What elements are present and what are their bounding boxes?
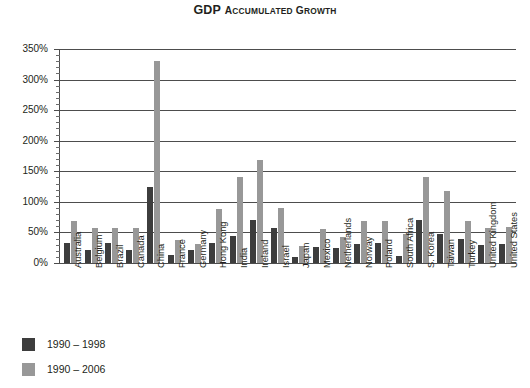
bar-1990-1998 — [375, 243, 381, 263]
y-axis-labels: 0%50%100%150%200%250%300%350% — [0, 0, 54, 388]
y-axis-label-300: 300% — [22, 75, 48, 85]
bar-1990-1998 — [188, 250, 194, 263]
x-axis-label: Netherlands — [344, 218, 353, 268]
x-axis-label: Turkey — [468, 240, 477, 268]
bar-1990-1998 — [478, 245, 484, 263]
bar-1990-1998 — [168, 255, 174, 263]
bar-1990-1998 — [396, 256, 402, 263]
chart-title-rest: ACCUMULATED GROWTH — [225, 5, 337, 16]
bar-group — [105, 49, 118, 263]
y-axis-label-100: 100% — [22, 197, 48, 207]
y-axis-label-350: 350% — [22, 44, 48, 54]
x-axis-label: China — [157, 244, 166, 268]
bar-1990-1998 — [437, 234, 443, 263]
y-axis-label-150: 150% — [22, 166, 48, 176]
bar-group — [271, 49, 284, 263]
bar-group — [354, 49, 367, 263]
y-axis-label-0: 0% — [34, 258, 48, 268]
bar-group — [147, 49, 160, 263]
bar-group — [292, 49, 305, 263]
bar-group — [230, 49, 243, 263]
x-axis-label: Belgium — [95, 234, 104, 268]
x-axis-label: South Africa — [406, 218, 415, 268]
x-axis-label: Poland — [385, 239, 394, 268]
bar-1990-1998 — [105, 243, 111, 263]
bar-group — [85, 49, 98, 263]
chart-title: GDP ACCUMULATED GROWTH — [0, 3, 530, 17]
x-axis-label: Brazil — [116, 245, 125, 268]
y-axis-label-250: 250% — [22, 105, 48, 115]
x-axis-label: Canada — [137, 235, 146, 268]
bar-1990-1998 — [230, 236, 236, 263]
bar-1990-1998 — [499, 244, 505, 263]
x-axis-label: Australia — [74, 232, 83, 268]
gdp-accumulated-growth-chart: GDP ACCUMULATED GROWTH 0%50%100%150%200%… — [0, 0, 530, 388]
x-axis-label: Hong Kong — [219, 221, 228, 268]
y-axis-label-200: 200% — [22, 136, 48, 146]
x-axis-label: Germany — [199, 230, 208, 268]
x-axis-label: Ireland — [261, 240, 270, 268]
legend-label: 1990 – 2006 — [47, 363, 105, 376]
x-axis-label: United States — [510, 212, 519, 268]
y-tick-major-0 — [54, 263, 60, 264]
bar-1990-1998 — [313, 247, 319, 264]
legend-label: 1990 – 1998 — [47, 338, 105, 351]
chart-title-lead: GDP — [193, 3, 221, 17]
x-axis-label: S. Korea — [427, 232, 436, 268]
bar-1990-1998 — [333, 248, 339, 263]
bar-1990-1998 — [209, 243, 215, 263]
x-axis-label: United Kingdom — [489, 202, 498, 268]
bar-group — [313, 49, 326, 263]
bar-group — [458, 49, 471, 263]
bar-1990-1998 — [271, 228, 277, 263]
legend-swatch-icon — [22, 338, 35, 351]
bar-1990-2006 — [154, 61, 160, 263]
bar-group — [250, 49, 263, 263]
bar-1990-1998 — [126, 250, 132, 263]
bar-1990-1998 — [147, 187, 153, 263]
x-axis-label: India — [240, 248, 249, 268]
bar-group — [168, 49, 181, 263]
y-axis-label-50: 50% — [28, 227, 48, 237]
bar-1990-1998 — [250, 220, 256, 263]
bar-1990-1998 — [354, 244, 360, 263]
x-axis-label: Israel — [282, 245, 291, 268]
bar-group — [375, 49, 388, 263]
x-axis-label: Japan — [302, 243, 311, 268]
bars-layer — [59, 49, 515, 263]
bar-1990-1998 — [85, 250, 91, 263]
bar-1990-1998 — [416, 220, 422, 263]
bar-1990-1998 — [458, 239, 464, 263]
bar-1990-1998 — [64, 243, 70, 263]
bar-group — [437, 49, 450, 263]
legend-swatch-icon — [22, 363, 35, 376]
x-axis-label: France — [178, 239, 187, 268]
x-axis-label: Norway — [365, 236, 374, 268]
x-axis-labels: AustraliaBelgiumBrazilCanadaChinaFranceG… — [59, 266, 515, 338]
bar-1990-1998 — [292, 257, 298, 263]
x-axis-label: Mexico — [323, 239, 332, 268]
bar-group — [126, 49, 139, 263]
x-axis-label: Taiwan — [447, 239, 456, 268]
